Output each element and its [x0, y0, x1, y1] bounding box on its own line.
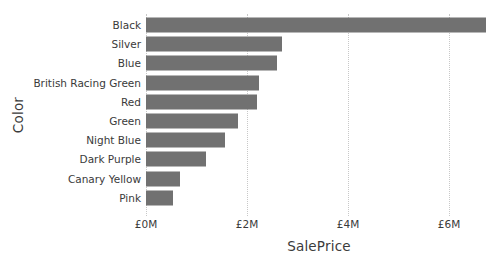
x-axis-tick-label: £4M	[337, 218, 359, 230]
bar-row: Red	[146, 92, 492, 111]
x-axis-tick-label: £0M	[135, 218, 157, 230]
bar-silver[interactable]	[146, 37, 282, 52]
bar-row: Dark Purple	[146, 150, 492, 169]
bar-category-label: Canary Yellow	[68, 173, 141, 185]
bar-category-label: Silver	[112, 38, 142, 50]
bar-category-label: Green	[109, 115, 141, 127]
bar-row: Green	[146, 112, 492, 131]
bar-category-label: Red	[121, 96, 141, 108]
x-axis-tick-labels: £0M£2M£4M£6M	[0, 218, 496, 234]
y-axis-title: Color	[6, 0, 30, 230]
bar-row: Canary Yellow	[146, 169, 492, 188]
bar-category-label: Night Blue	[86, 134, 141, 146]
x-axis-tick-label: £2M	[236, 218, 258, 230]
bar-blue[interactable]	[146, 56, 277, 71]
bar-row: British Racing Green	[146, 73, 492, 92]
bar-british-racing-green[interactable]	[146, 75, 259, 90]
bar-row: Pink	[146, 188, 492, 207]
y-axis-title-label: Color	[10, 97, 26, 133]
bar-category-label: Blue	[118, 57, 141, 69]
bar-dark-purple[interactable]	[146, 152, 206, 167]
plot-area: BlackSilverBlueBritish Racing GreenRedGr…	[146, 14, 492, 216]
bar-category-label: Black	[113, 19, 141, 31]
bar-row: Night Blue	[146, 131, 492, 150]
x-axis-tick-label: £6M	[438, 218, 460, 230]
bar-row: Blue	[146, 54, 492, 73]
bar-category-label: Dark Purple	[80, 153, 141, 165]
bar-black[interactable]	[146, 18, 486, 33]
bar-chart: Color BlackSilverBlueBritish Racing Gree…	[0, 0, 496, 265]
x-axis-title: SalePrice	[146, 238, 492, 254]
bar-pink[interactable]	[146, 190, 173, 205]
bar-category-label: Pink	[119, 192, 141, 204]
bar-night-blue[interactable]	[146, 133, 225, 148]
bar-green[interactable]	[146, 114, 238, 129]
bar-row: Black	[146, 16, 492, 35]
bar-canary-yellow[interactable]	[146, 171, 180, 186]
bar-row: Silver	[146, 35, 492, 54]
bar-category-label: British Racing Green	[33, 77, 141, 89]
bar-red[interactable]	[146, 94, 257, 109]
